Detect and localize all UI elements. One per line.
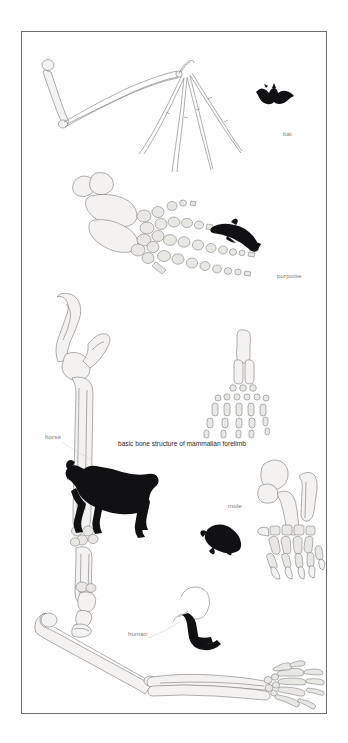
bat-silhouette <box>254 82 296 110</box>
label-porpoise: porpoise <box>277 272 302 279</box>
label-bat: bat <box>283 130 292 137</box>
silhouette-bat <box>254 82 296 110</box>
mole-forelimb-bones <box>258 456 328 574</box>
silhouette-mole <box>199 521 245 555</box>
figure-mole-forelimb <box>258 456 328 574</box>
horse-silhouette <box>54 458 160 550</box>
silhouette-porpoise <box>207 216 263 256</box>
figure-schematic-forelimb <box>196 328 296 436</box>
schematic-forelimb-bones <box>196 328 296 436</box>
bat-forelimb-bones <box>38 48 268 188</box>
illustration-plate: bat <box>0 0 348 743</box>
label-mole: mole <box>228 502 242 509</box>
caption-schematic: basic bone structure of mammalian foreli… <box>118 440 246 447</box>
figure-bat-forelimb <box>38 48 268 188</box>
leader-line-human <box>140 620 186 646</box>
mole-silhouette <box>199 521 245 555</box>
silhouette-horse <box>54 458 160 550</box>
porpoise-silhouette <box>207 216 263 256</box>
label-horse: horse <box>45 433 61 440</box>
